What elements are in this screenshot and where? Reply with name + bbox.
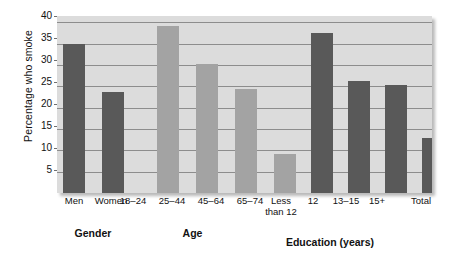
group-label-gender: Gender bbox=[57, 227, 129, 239]
x-tick-label-edu-15plus: 15+ bbox=[357, 196, 397, 207]
y-tick-label-25: 25 bbox=[28, 77, 52, 87]
bar bbox=[311, 33, 333, 193]
plot-inner bbox=[57, 16, 432, 193]
y-tick-label-5: 5 bbox=[28, 165, 52, 175]
bar bbox=[385, 85, 407, 193]
x-tick-label-men: Men bbox=[56, 196, 92, 207]
y-tick-label-15: 15 bbox=[28, 121, 52, 131]
x-tick-label-edu-less-12-line1: Less bbox=[271, 195, 291, 206]
bar bbox=[274, 154, 296, 193]
x-tick-label-age-45-64: 45–64 bbox=[189, 196, 233, 207]
bar bbox=[196, 64, 218, 193]
gridline-35 bbox=[57, 44, 432, 45]
y-tick-label-40: 40 bbox=[28, 11, 52, 21]
y-tick-label-30: 30 bbox=[28, 55, 52, 65]
y-tick-label-35: 35 bbox=[28, 33, 52, 43]
bar bbox=[157, 26, 179, 193]
bar bbox=[63, 44, 85, 193]
gridline-30 bbox=[57, 65, 432, 66]
x-tick-label-edu-less-12-line2: than 12 bbox=[265, 206, 297, 217]
group-label-education: Education (years) bbox=[255, 236, 405, 248]
bar-chart-figure: Percentage who smoke 40 35 30 25 20 15 1… bbox=[0, 0, 453, 260]
gridline-40 bbox=[57, 22, 432, 23]
bar bbox=[235, 89, 257, 193]
bar bbox=[348, 81, 370, 193]
bar bbox=[102, 92, 124, 194]
x-tick-label-age-25-44: 25–44 bbox=[150, 196, 194, 207]
bar bbox=[422, 138, 432, 193]
y-tick-label-10: 10 bbox=[28, 143, 52, 153]
plot-area bbox=[57, 16, 432, 193]
gridline-25 bbox=[57, 86, 432, 87]
x-tick-label-age-18-24: 18–24 bbox=[111, 196, 155, 207]
group-label-age: Age bbox=[130, 227, 255, 239]
y-tick-label-20: 20 bbox=[28, 99, 52, 109]
x-tick-label-total: Total bbox=[398, 196, 444, 207]
